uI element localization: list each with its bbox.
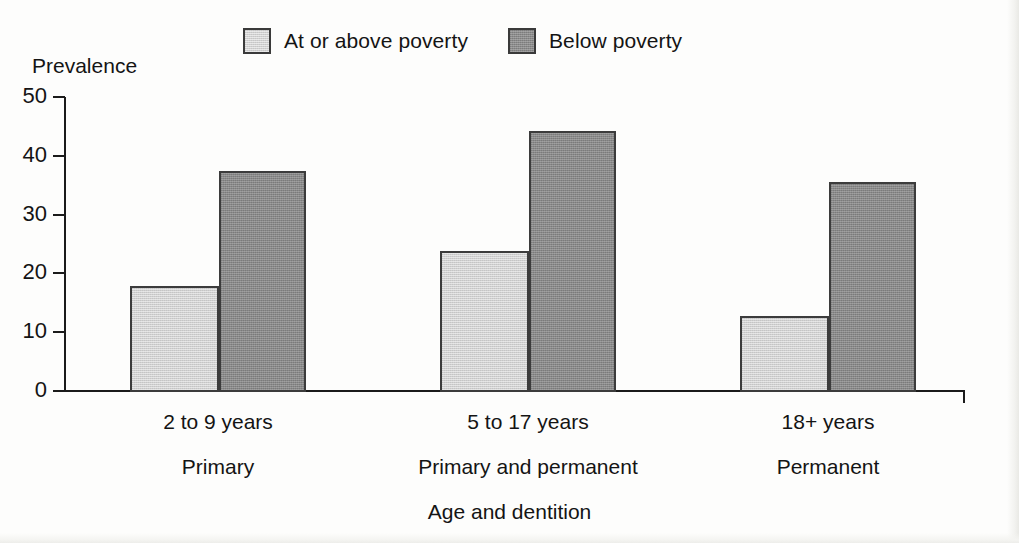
y-axis-tick [53,96,65,98]
y-axis-tick [53,214,65,216]
y-axis-tick-label: 40 [3,144,47,166]
plot-area: 01020304050 2 to 9 yearsPrimary5 to 17 y… [0,0,1019,543]
chart-page: At or above poverty Below poverty Preval… [0,0,1019,543]
category-label-age: 5 to 17 years [378,410,678,434]
y-axis-tick [53,390,65,392]
category-label-age: 18+ years [678,410,978,434]
y-axis-tick-label: 30 [3,203,47,225]
y-axis-tick-label: 20 [3,261,47,283]
y-axis-tick-label: 50 [3,85,47,107]
bar-below-poverty [829,182,916,392]
category-label-dentition: Primary and permanent [353,455,703,479]
x-axis-title: Age and dentition [0,500,1019,524]
y-axis-line [64,97,66,391]
y-axis-tick [53,155,65,157]
bar-at-or-above-poverty [440,251,529,392]
category-label-dentition: Primary [43,455,393,479]
bar-at-or-above-poverty [130,286,219,392]
bar-below-poverty [529,131,616,392]
bar-below-poverty [219,171,306,392]
x-axis-end-tick [963,390,965,403]
y-axis-tick-label: 0 [3,379,47,401]
bar-at-or-above-poverty [740,316,829,392]
y-axis-tick [53,272,65,274]
category-label-age: 2 to 9 years [68,410,368,434]
category-label-dentition: Permanent [653,455,1003,479]
y-axis-tick [53,331,65,333]
y-axis-tick-label: 10 [3,320,47,342]
